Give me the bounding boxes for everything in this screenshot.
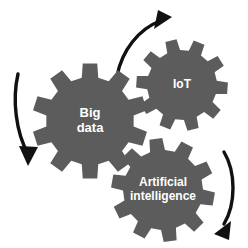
- gear-big-data-label-line2: data: [77, 120, 105, 135]
- gear-big-data-label-line1: Big: [80, 105, 101, 120]
- gear-ai-label-line2: intelligence: [130, 189, 196, 203]
- diagram-canvas: Big data IoT Artificial intelligence: [0, 0, 248, 248]
- gears-diagram: Big data IoT Artificial intelligence: [0, 0, 248, 248]
- gear-ai-label-line1: Artificial: [139, 175, 187, 189]
- gear-iot-label-line1: IoT: [173, 77, 192, 91]
